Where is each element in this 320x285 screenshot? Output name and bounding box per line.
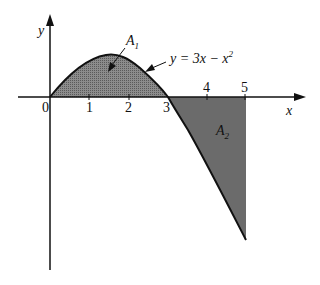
origin-label: 0 [42, 101, 49, 115]
plot-svg [0, 0, 320, 285]
x-tick-label-2: 2 [125, 101, 132, 115]
y-axis-label: y [38, 24, 44, 38]
x-tick-label-3: 3 [163, 101, 170, 115]
x-tick-label-1: 1 [86, 101, 93, 115]
x-tick-label-4: 4 [203, 81, 210, 95]
x-axis-label: x [286, 104, 292, 118]
region-a1 [50, 55, 168, 97]
function-label: y = 3x − x2 [170, 50, 233, 66]
y-axis-arrow-icon [46, 14, 54, 26]
curve-pointer [152, 62, 166, 68]
region-a2-label: A2 [216, 124, 229, 141]
x-tick-label-5: 5 [241, 81, 248, 95]
area-diagram: y x 0 1 2 3 4 5 A1 A2 y = 3x − x2 [0, 0, 320, 285]
curve-pointer-arrow-icon [145, 64, 155, 72]
x-axis-arrow-icon [294, 93, 306, 101]
region-a1-label: A1 [126, 34, 139, 51]
